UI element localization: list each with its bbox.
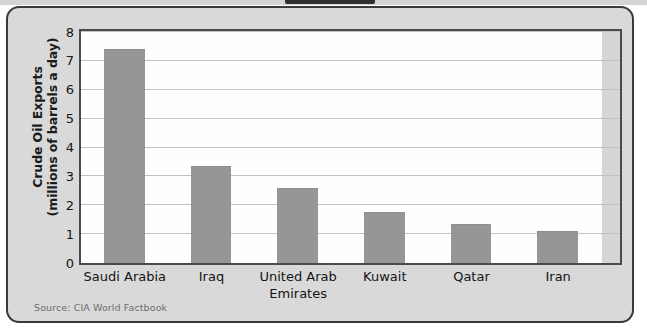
y-axis-tick-label: 4	[58, 140, 74, 155]
bar	[364, 212, 405, 263]
x-axis-tick-label: Iraq	[168, 269, 255, 286]
x-axis-tick-label-line: Kuwait	[342, 269, 429, 286]
bar	[277, 188, 318, 263]
y-axis-tick-label: 7	[58, 53, 74, 68]
gridline	[81, 60, 620, 61]
bar	[191, 166, 232, 263]
plot-area	[79, 29, 622, 265]
y-axis-tick-label: 0	[58, 255, 74, 270]
y-axis-tick-label: 2	[58, 197, 74, 212]
x-axis-tick-label-line: Emirates	[255, 286, 342, 303]
gridline	[81, 204, 620, 205]
x-axis-tick-label: Kuwait	[342, 269, 429, 286]
bar	[104, 49, 145, 263]
x-axis-tick-label: Iran	[515, 269, 602, 286]
y-axis-title-line1: Crude Oil Exports	[30, 66, 45, 188]
x-axis-tick-label-line: United Arab	[255, 269, 342, 286]
x-axis-tick-label-line: Iraq	[168, 269, 255, 286]
gridline	[81, 118, 620, 119]
source-note: Source: CIA World Factbook	[34, 302, 167, 313]
chart-panel: Crude Oil Exports (millions of barrels a…	[6, 6, 634, 323]
gridline	[81, 147, 620, 148]
gridline	[81, 89, 620, 90]
cropped-title-band-marker	[285, 0, 375, 4]
x-axis-tick-label-line: Saudi Arabia	[82, 269, 169, 286]
x-axis-tick-label: Saudi Arabia	[82, 269, 169, 286]
y-axis-tick-label: 1	[58, 226, 74, 241]
y-axis-tick-labels: 012345678	[52, 29, 74, 265]
y-axis-tick-label: 3	[58, 168, 74, 183]
chart-screenshot: Crude Oil Exports (millions of barrels a…	[0, 0, 647, 333]
bar	[537, 231, 578, 263]
x-axis-tick-label: Qatar	[428, 269, 515, 286]
plot-inner	[81, 31, 620, 263]
y-axis-tick-label: 6	[58, 82, 74, 97]
x-axis-tick-label-line: Qatar	[428, 269, 515, 286]
gridline	[81, 175, 620, 176]
gridline	[81, 31, 620, 32]
y-axis-tick-label: 5	[58, 111, 74, 126]
y-axis-tick-label: 8	[58, 24, 74, 39]
x-axis-tick-label: United ArabEmirates	[255, 269, 342, 302]
bar	[451, 224, 492, 263]
x-axis-tick-label-line: Iran	[515, 269, 602, 286]
